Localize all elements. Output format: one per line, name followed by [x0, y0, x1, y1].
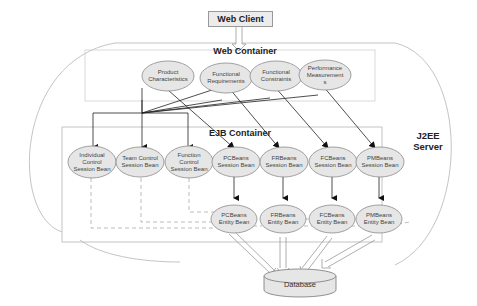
label-performance-measurements: Performance Measurement s — [299, 65, 351, 86]
label-individual-session: Individual Control Session Bean — [68, 152, 116, 173]
text-line: Session Bean — [309, 162, 357, 169]
text-line: FCBeans — [309, 155, 357, 162]
text-line: Individual — [68, 152, 116, 159]
web-container-title: Web Container — [200, 46, 290, 56]
text-line: Team Control — [116, 155, 164, 162]
text-line: Functional — [250, 69, 302, 76]
text-line: Session Bean — [260, 162, 308, 169]
text-line: Function — [165, 152, 213, 159]
label-pcbeans-entity: PCBeans Entity Bean — [211, 212, 257, 226]
j2ee-server-label: J2EE Server — [408, 130, 448, 152]
j2ee-label-line1: J2EE — [408, 130, 448, 141]
text-line: Entity Bean — [309, 219, 355, 226]
text-line: Control — [68, 159, 116, 166]
text-line: Entity Bean — [356, 219, 402, 226]
text-line: PMBeans — [356, 212, 402, 219]
text-line: PMBeans — [356, 155, 404, 162]
text-line: PCBeans — [211, 212, 257, 219]
label-product-characteristics: Product Characteristics — [142, 69, 194, 83]
text-line: Session Bean — [68, 166, 116, 173]
ejb-container-title: EJB Container — [200, 128, 280, 138]
text-line: s — [299, 79, 351, 86]
text-line: Entity Bean — [211, 219, 257, 226]
label-pmbeans-session: PMBeans Session Bean — [356, 155, 404, 169]
text-line: Session Bean — [356, 162, 404, 169]
text-line: Product — [142, 69, 194, 76]
j2ee-label-line2: Server — [408, 141, 448, 152]
label-pmbeans-entity: PMBeans Entity Bean — [356, 212, 402, 226]
text-line: Requirements — [200, 78, 252, 85]
text-line: FCBeans — [309, 212, 355, 219]
label-pcbeans-session: PCBeans Session Bean — [212, 155, 260, 169]
label-fcbeans-entity: FCBeans Entity Bean — [309, 212, 355, 226]
label-functional-constraints: Functional Constraints — [250, 69, 302, 83]
web-client-box: Web Client — [208, 11, 273, 27]
text-line: Session Bean — [212, 162, 260, 169]
label-team-session: Team Control Session Bean — [116, 155, 164, 169]
text-line: FRBeans — [260, 155, 308, 162]
text-line: Constraints — [250, 76, 302, 83]
label-function-session: Function Control Session Bean — [165, 152, 213, 173]
text-line: Control — [165, 159, 213, 166]
text-line: Session Bean — [165, 166, 213, 173]
label-frbeans-entity: FRBeans Entity Bean — [260, 212, 306, 226]
label-functional-requirements: Functional Requirements — [200, 71, 252, 85]
text-line: Characteristics — [142, 76, 194, 83]
text-line: PCBeans — [212, 155, 260, 162]
text-line: FRBeans — [260, 212, 306, 219]
text-line: Session Bean — [116, 162, 164, 169]
text-line: Performance — [299, 65, 351, 72]
label-fcbeans-session: FCBeans Session Bean — [309, 155, 357, 169]
text-line: Measurement — [299, 72, 351, 79]
text-line: Entity Bean — [260, 219, 306, 226]
text-line: Functional — [200, 71, 252, 78]
database-label: Database — [270, 280, 330, 289]
label-frbeans-session: FRBeans Session Bean — [260, 155, 308, 169]
